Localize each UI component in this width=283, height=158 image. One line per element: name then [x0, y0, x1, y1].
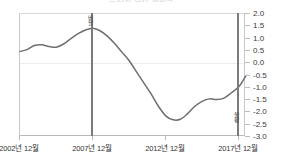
- y-tick: [245, 38, 250, 39]
- x-tick-label: 2017년 12월: [218, 142, 257, 153]
- data-series-line: [20, 14, 246, 137]
- y-tick-label: 0.0: [253, 58, 264, 67]
- y-tick-label: 0.5: [253, 45, 264, 54]
- x-tick: [238, 136, 239, 140]
- event-label-불황: 불황: [234, 112, 240, 122]
- x-tick: [19, 136, 20, 140]
- y-axis: 2.01.51.00.50.0-0.5-1.0-1.5-2.0-2.5-3.0: [245, 13, 283, 136]
- y-tick: [245, 62, 250, 63]
- y-tick-label: -3.0: [253, 132, 267, 141]
- x-tick: [92, 136, 93, 140]
- y-tick: [245, 13, 250, 14]
- y-tick: [245, 99, 250, 100]
- y-tick: [245, 50, 250, 51]
- y-tick-label: -1.0: [253, 82, 267, 91]
- chart-container: 금리와 경기 사이클 버블불황 2.01.51.00.50.0-0.5-1.0-…: [0, 0, 283, 158]
- y-tick: [245, 75, 250, 76]
- event-line-1: [91, 13, 93, 136]
- event-label-버블: 버블: [88, 15, 94, 25]
- y-tick: [245, 87, 250, 88]
- y-tick-label: -2.5: [253, 119, 267, 128]
- y-tick-label: 1.0: [253, 33, 264, 42]
- x-tick-label: 2012년 12월: [145, 142, 184, 153]
- chart-title: 금리와 경기 사이클: [0, 0, 283, 2]
- y-tick: [245, 25, 250, 26]
- series-path-지표: [20, 28, 246, 120]
- plot-area: [19, 13, 245, 136]
- x-tick-label: 2002년 12월: [0, 142, 39, 153]
- y-tick-label: -0.5: [253, 70, 267, 79]
- y-tick: [245, 111, 250, 112]
- x-tick: [165, 136, 166, 140]
- y-tick-label: -1.5: [253, 95, 267, 104]
- y-tick-label: -2.0: [253, 107, 267, 116]
- y-tick-label: 1.5: [253, 21, 264, 30]
- y-tick-label: 2.0: [253, 9, 264, 18]
- y-tick: [245, 136, 250, 137]
- x-tick-label: 2007년 12월: [72, 142, 111, 153]
- y-tick: [245, 124, 250, 125]
